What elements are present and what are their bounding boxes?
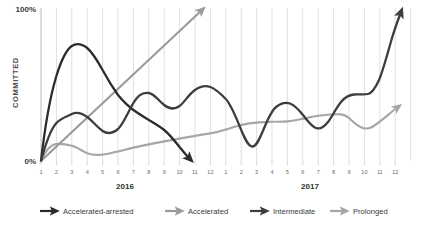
x-tick-label: 2: [55, 169, 58, 175]
x-tick-marks: [41, 161, 395, 165]
x-tick-labels-2017: 1 2 3 4 5 6 7 8 9 10 11 12: [224, 169, 398, 175]
y-axis-min-label: 0%: [24, 157, 36, 166]
year-label-2016: 2016: [116, 182, 134, 191]
x-tick-label: 1: [224, 169, 227, 175]
series-line-intermediate: [41, 12, 401, 161]
x-tick-labels-2016: 1 2 3 4 5 6 7 8 9 10 11 12: [39, 169, 213, 175]
x-tick-label: 6: [116, 169, 119, 175]
x-tick-label: 7: [132, 169, 135, 175]
chart-container: 100% 0% COMMITTED: [0, 0, 429, 227]
legend: Accelerated-arrested Accelerated Interme…: [40, 207, 388, 216]
y-axis-title: COMMITTED: [11, 57, 20, 108]
x-tick-label: 11: [192, 169, 198, 175]
x-tick-label: 10: [176, 169, 182, 175]
x-tick-label: 11: [377, 169, 383, 175]
line-chart-figure: 100% 0% COMMITTED: [0, 0, 429, 227]
legend-label-prolonged: Prolonged: [353, 207, 388, 216]
x-tick-label: 12: [392, 169, 398, 175]
x-tick-label: 10: [361, 169, 367, 175]
legend-label-accelerated-arrested: Accelerated-arrested: [63, 207, 134, 216]
x-tick-label: 8: [332, 169, 335, 175]
x-tick-label: 9: [347, 169, 350, 175]
y-axis-max-label: 100%: [16, 5, 36, 14]
series-line-prolonged: [41, 107, 398, 161]
x-tick-label: 4: [270, 169, 273, 175]
legend-label-intermediate: Intermediate: [273, 207, 315, 216]
x-tick-label: 12: [207, 169, 213, 175]
x-tick-label: 6: [301, 169, 304, 175]
legend-label-accelerated: Accelerated: [188, 207, 228, 216]
x-tick-label: 3: [255, 169, 258, 175]
x-tick-label: 8: [147, 169, 150, 175]
x-tick-label: 7: [317, 169, 320, 175]
x-tick-label: 3: [70, 169, 73, 175]
x-tick-label: 4: [86, 169, 89, 175]
x-tick-label: 9: [163, 169, 166, 175]
x-tick-label: 2: [240, 169, 243, 175]
year-label-2017: 2017: [301, 182, 319, 191]
x-tick-label: 5: [101, 169, 104, 175]
x-tick-label: 1: [39, 169, 42, 175]
gridlines: [56, 8, 410, 161]
x-tick-label: 5: [286, 169, 289, 175]
